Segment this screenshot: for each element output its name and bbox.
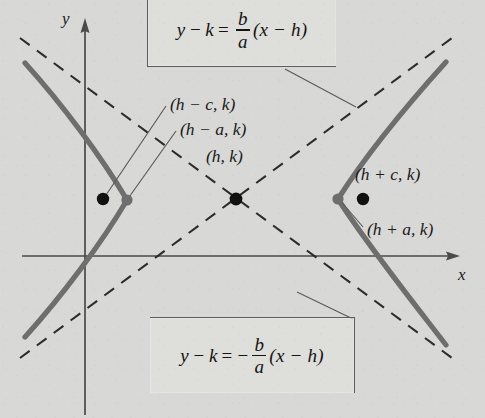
y-axis-label: y bbox=[62, 10, 70, 27]
left-vertex-label: (h − a, k) bbox=[180, 121, 246, 139]
equation-callout-top: y − k = b a (x − h) bbox=[147, 0, 336, 67]
equation-bottom-numerator: b bbox=[255, 335, 265, 355]
left-focus-point bbox=[97, 193, 109, 205]
equation-bottom-lhs-var2: k bbox=[209, 345, 218, 367]
right-focus-point bbox=[357, 193, 369, 205]
equation-top-equals: = bbox=[218, 19, 229, 41]
equation-bottom: y − k = − b a (x − h) bbox=[180, 335, 323, 377]
equation-top-lhs-var2: k bbox=[205, 19, 214, 41]
right-vertex-label: (h + a, k) bbox=[367, 221, 433, 239]
equation-bottom-lhs-var: y bbox=[180, 345, 189, 367]
equation-bottom-denominator: a bbox=[255, 356, 265, 376]
equation-top-lhs-op: − bbox=[190, 19, 201, 41]
equation-top-fraction: b a bbox=[236, 9, 250, 51]
equation-callout-bottom: y − k = − b a (x − h) bbox=[150, 317, 355, 393]
right-vertex-point bbox=[332, 193, 343, 204]
left-focus-label: (h − c, k) bbox=[170, 96, 235, 114]
equation-top-denominator: a bbox=[238, 31, 248, 51]
leader-line-left-vertex bbox=[127, 131, 176, 200]
marker-points-group bbox=[97, 193, 369, 206]
hyperbola-right-branch bbox=[338, 62, 446, 345]
equation-top-numerator: b bbox=[238, 9, 248, 29]
leader-line-top-equation bbox=[285, 69, 356, 107]
leader-line-left-focus bbox=[104, 106, 166, 198]
equation-bottom-lhs-op: − bbox=[193, 345, 204, 367]
center-point bbox=[230, 193, 243, 206]
equation-top-lhs-var: y bbox=[177, 19, 186, 41]
equation-top: y − k = b a (x − h) bbox=[177, 9, 307, 51]
right-focus-label: (h + c, k) bbox=[355, 166, 420, 184]
equation-bottom-equals: = bbox=[222, 345, 233, 367]
y-axis-arrowhead bbox=[81, 18, 90, 33]
equation-bottom-rhs: (x − h) bbox=[269, 345, 323, 367]
x-axis-label: x bbox=[458, 266, 466, 283]
equation-bottom-fraction: b a bbox=[252, 335, 266, 377]
x-axis-arrowhead bbox=[446, 252, 460, 261]
equation-bottom-sign: − bbox=[237, 345, 248, 367]
hyperbola-left-branch bbox=[25, 63, 127, 337]
center-label: (h, k) bbox=[206, 148, 243, 166]
leader-line-bottom-equation bbox=[297, 292, 353, 319]
left-vertex-point bbox=[121, 194, 132, 205]
equation-top-rhs: (x − h) bbox=[253, 19, 307, 41]
